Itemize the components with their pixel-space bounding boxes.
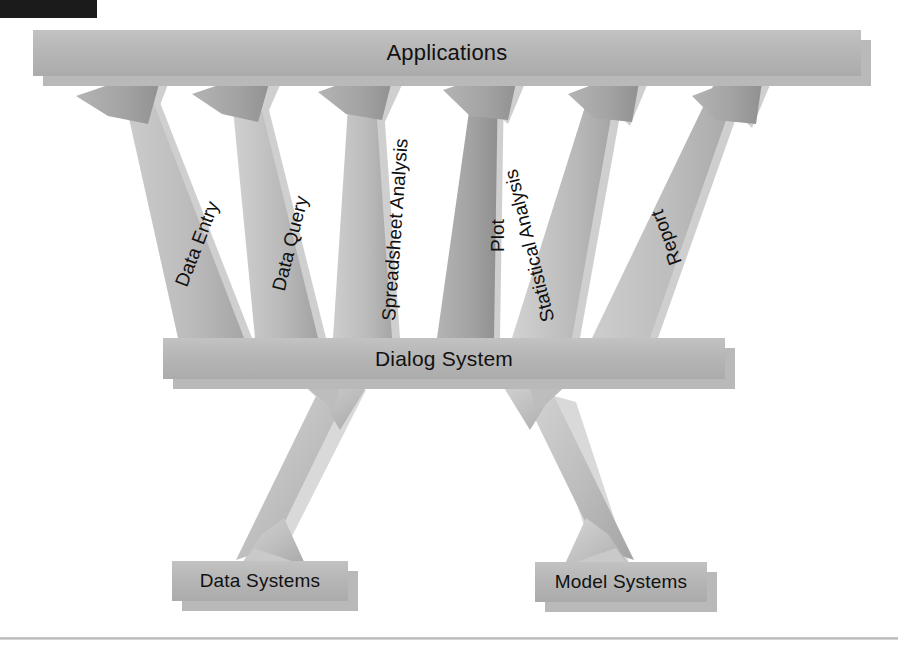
bottom-divider-rule bbox=[0, 637, 898, 640]
data-systems-box[interactable]: Data Systems bbox=[172, 561, 348, 601]
applications-bar[interactable]: Applications bbox=[33, 30, 861, 76]
dialog-system-bar[interactable]: Dialog System bbox=[163, 338, 725, 379]
diagram-canvas: Data Entry Data Query Spreadsheet Analys… bbox=[0, 0, 898, 660]
arrow-dialog-to-data-systems bbox=[236, 378, 372, 572]
arrow-plot bbox=[437, 64, 520, 338]
arrow-layer bbox=[0, 0, 898, 660]
model-systems-box[interactable]: Model Systems bbox=[535, 562, 707, 602]
applications-label: Applications bbox=[386, 40, 507, 66]
data-systems-label: Data Systems bbox=[200, 570, 321, 592]
model-systems-label: Model Systems bbox=[555, 571, 687, 593]
dialog-system-label: Dialog System bbox=[375, 347, 513, 371]
